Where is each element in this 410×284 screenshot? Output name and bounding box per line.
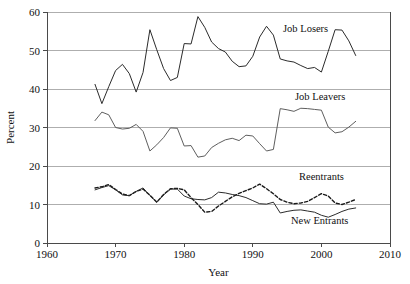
y-tick-label-10: 10 <box>29 199 41 211</box>
y-tick-label-40: 40 <box>29 83 41 95</box>
y-tick-label-20: 20 <box>29 160 41 172</box>
y-tick-label-50: 50 <box>29 45 41 57</box>
y-tick-label-30: 30 <box>29 122 41 134</box>
x-tick-label-1970: 1970 <box>105 248 128 260</box>
x-tick-label-1960: 1960 <box>36 248 59 260</box>
series-line-reentrants <box>95 184 356 212</box>
line-chart: 0102030405060196019701980199020002010Job… <box>0 0 410 284</box>
new-entrants-label: New Entrants <box>291 215 348 226</box>
job-leavers-label: Job Leavers <box>295 91 345 102</box>
series-line-job-leavers <box>95 108 356 157</box>
chart-container: · · · · · · · · 010203040506019601970198… <box>0 0 410 284</box>
y-axis-title: Percent <box>4 111 16 144</box>
x-tick-label-1980: 1980 <box>173 248 196 260</box>
x-tick-label-2010: 2010 <box>379 248 402 260</box>
job-losers-label: Job Losers <box>283 23 328 34</box>
reentrants-label: Reentrants <box>299 171 344 182</box>
x-tick-label-2000: 2000 <box>310 248 333 260</box>
x-tick-label-1990: 1990 <box>242 248 265 260</box>
x-axis-title: Year <box>208 266 229 278</box>
y-tick-label-60: 60 <box>29 6 41 18</box>
